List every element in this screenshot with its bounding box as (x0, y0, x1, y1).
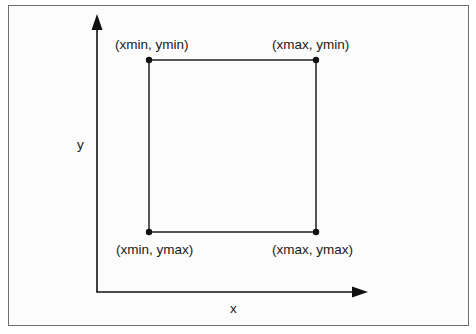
x-axis-arrow-icon (352, 287, 368, 298)
corner-dot-bottom-right (313, 229, 319, 235)
x-axis-label: x (230, 301, 237, 316)
corner-dot-top-right (313, 57, 319, 63)
y-axis-label: y (77, 137, 84, 152)
x-axis (96, 287, 368, 298)
corner-label-top-right: (xmax, ymin) (272, 37, 349, 52)
bounding-rectangle (149, 60, 316, 232)
corner-label-bottom-left: (xmin, ymax) (116, 242, 193, 257)
diagram-canvas (0, 0, 476, 334)
corner-dot-bottom-left (146, 229, 152, 235)
y-axis-arrow-icon (92, 14, 103, 30)
corner-label-bottom-right: (xmax, ymax) (272, 242, 353, 257)
y-axis (92, 14, 103, 292)
corner-dot-top-left (146, 57, 152, 63)
corner-label-top-left: (xmin, ymin) (115, 37, 189, 52)
